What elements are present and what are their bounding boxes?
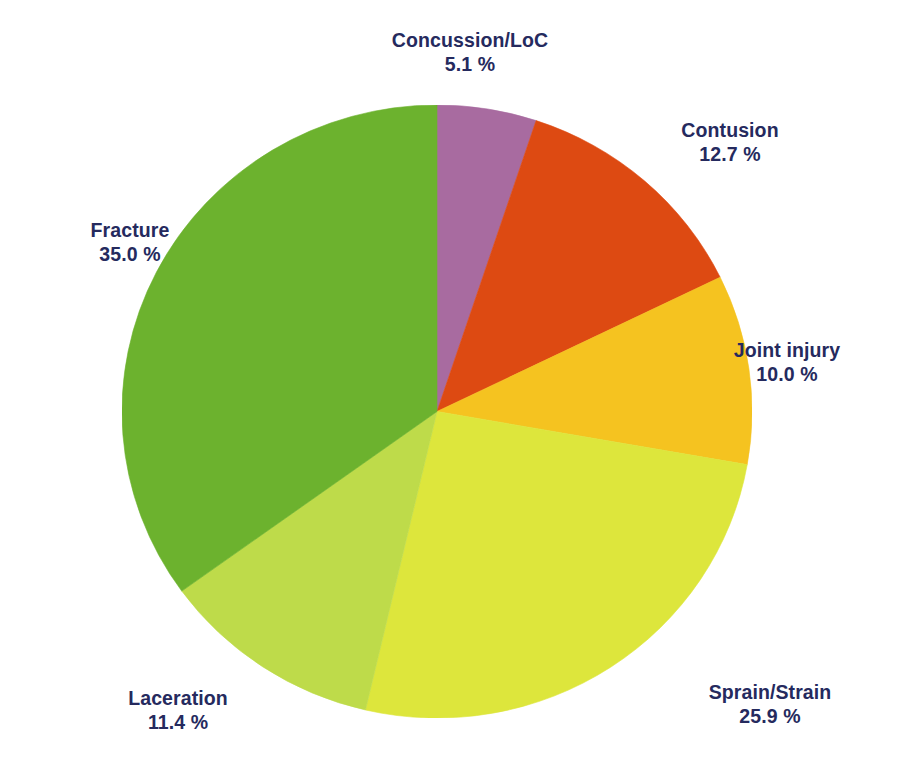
pie-slice-group xyxy=(122,105,752,718)
slice-label-fracture-name: Fracture xyxy=(10,218,250,242)
slice-label-laceration-value: 11.4 % xyxy=(48,710,308,734)
slice-label-fracture-value: 35.0 % xyxy=(10,242,250,266)
slice-label-laceration: Laceration 11.4 % xyxy=(48,686,308,734)
pie-svg xyxy=(122,105,752,718)
slice-label-joint-injury-value: 10.0 % xyxy=(662,362,912,386)
slice-label-concussion-value: 5.1 % xyxy=(340,52,600,76)
pie-chart-figure: Concussion/LoC 5.1 % Contusion 12.7 % Jo… xyxy=(0,0,922,784)
slice-label-concussion-name: Concussion/LoC xyxy=(340,28,600,52)
slice-label-fracture: Fracture 35.0 % xyxy=(10,218,250,266)
slice-label-concussion: Concussion/LoC 5.1 % xyxy=(340,28,600,76)
slice-label-joint-injury-name: Joint injury xyxy=(662,338,912,362)
pie-chart-graphic xyxy=(122,105,752,718)
slice-label-sprain-strain-name: Sprain/Strain xyxy=(640,680,900,704)
slice-label-sprain-strain-value: 25.9 % xyxy=(640,704,900,728)
slice-label-contusion: Contusion 12.7 % xyxy=(600,118,860,166)
slice-label-contusion-value: 12.7 % xyxy=(600,142,860,166)
slice-label-sprain-strain: Sprain/Strain 25.9 % xyxy=(640,680,900,728)
slice-label-joint-injury: Joint injury 10.0 % xyxy=(662,338,912,386)
slice-label-laceration-name: Laceration xyxy=(48,686,308,710)
slice-label-contusion-name: Contusion xyxy=(600,118,860,142)
